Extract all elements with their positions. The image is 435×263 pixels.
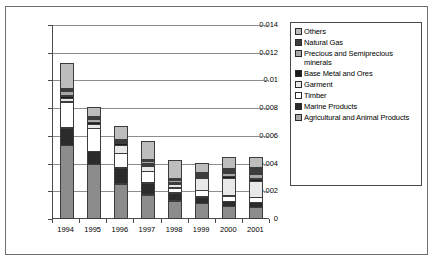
legend-item[interactable]: Base Metal and Ores bbox=[295, 69, 418, 78]
x-axis-tick-mark bbox=[269, 219, 270, 223]
bar-segment bbox=[114, 184, 128, 219]
legend-swatch-icon bbox=[295, 39, 302, 46]
plot-area bbox=[52, 25, 269, 219]
bar-segment bbox=[195, 203, 209, 218]
x-axis-tick-mark bbox=[133, 219, 134, 223]
x-axis-tick-mark bbox=[106, 219, 107, 223]
x-axis-tick-label: 1996 bbox=[111, 225, 128, 234]
gridline bbox=[53, 136, 269, 137]
legend-item[interactable]: Agricultural and Animal Products bbox=[295, 113, 418, 122]
bar-segment bbox=[222, 206, 236, 218]
legend-swatch-icon bbox=[295, 28, 302, 35]
gridline bbox=[53, 191, 269, 192]
legend-label: Base Metal and Ores bbox=[304, 69, 373, 78]
x-axis-tick-mark bbox=[215, 219, 216, 223]
gridline bbox=[53, 164, 269, 165]
bar-segment bbox=[141, 171, 155, 183]
x-axis-tick-label: 1998 bbox=[166, 225, 183, 234]
x-axis-tick-label: 1997 bbox=[139, 225, 156, 234]
bar-segment bbox=[168, 160, 182, 179]
x-axis-tick-mark bbox=[52, 219, 53, 223]
legend-swatch-icon bbox=[295, 103, 302, 110]
legend-swatch-icon bbox=[295, 81, 302, 88]
bar-segment bbox=[222, 178, 236, 196]
bar-segment bbox=[114, 153, 128, 168]
chart-figure: 00.0020.0040.0060.0080.010.0120.014 1994… bbox=[5, 6, 428, 255]
x-axis-tick-label: 2001 bbox=[247, 225, 264, 234]
legend-label: Garment bbox=[304, 80, 332, 89]
bar-1998[interactable] bbox=[168, 159, 182, 218]
legend-label: Precious and Semiprecious minerals bbox=[304, 49, 418, 67]
legend-item[interactable]: Others bbox=[295, 27, 418, 36]
x-axis-tick-mark bbox=[188, 219, 189, 223]
bar-segment bbox=[249, 181, 263, 198]
bar-segment bbox=[195, 178, 209, 190]
bar-segment bbox=[60, 102, 74, 128]
chart-legend: OthersNatural GasPrecious and Semiprecio… bbox=[290, 22, 422, 186]
bar-segment bbox=[141, 141, 155, 160]
bar-segment bbox=[87, 151, 101, 165]
bar-segment bbox=[114, 168, 128, 185]
x-axis-tick-mark bbox=[242, 219, 243, 223]
bar-1996[interactable] bbox=[114, 121, 128, 218]
bar-segment bbox=[60, 63, 74, 89]
legend-label: Agricultural and Animal Products bbox=[304, 113, 409, 122]
bar-segment bbox=[168, 201, 182, 219]
bar-1999[interactable] bbox=[195, 160, 209, 218]
x-axis-tick-label: 1995 bbox=[84, 225, 101, 234]
bar-segment bbox=[60, 128, 74, 146]
bar-segment bbox=[222, 157, 236, 169]
gridline bbox=[53, 53, 269, 54]
legend-item[interactable]: Precious and Semiprecious minerals bbox=[295, 49, 418, 67]
x-axis-tick-mark bbox=[161, 219, 162, 223]
bar-segment bbox=[141, 183, 155, 195]
legend-label: Timber bbox=[304, 91, 326, 100]
bar-segment bbox=[87, 164, 101, 218]
bar-2000[interactable] bbox=[222, 154, 236, 218]
bar-segment bbox=[60, 145, 74, 218]
bar-segment bbox=[114, 126, 128, 140]
gridline bbox=[53, 80, 269, 81]
legend-swatch-icon bbox=[295, 50, 302, 57]
legend-swatch-icon bbox=[295, 114, 302, 121]
legend-swatch-icon bbox=[295, 70, 302, 77]
bar-2001[interactable] bbox=[249, 154, 263, 218]
x-axis-tick-label: 1999 bbox=[193, 225, 210, 234]
bar-segment bbox=[87, 128, 101, 152]
bar-segment bbox=[249, 207, 263, 218]
legend-label: Others bbox=[304, 27, 326, 36]
bar-1997[interactable] bbox=[141, 137, 155, 218]
gridline bbox=[53, 108, 269, 109]
plot-area-wrapper: 00.0020.0040.0060.0080.010.0120.014 1994… bbox=[6, 7, 278, 256]
bar-segment bbox=[249, 157, 263, 168]
legend-item[interactable]: Marine Products bbox=[295, 102, 418, 111]
gridline bbox=[53, 25, 269, 26]
bar-segment bbox=[141, 195, 155, 219]
legend-item[interactable]: Timber bbox=[295, 91, 418, 100]
legend-item[interactable]: Natural Gas bbox=[295, 38, 418, 47]
bar-1995[interactable] bbox=[87, 103, 101, 218]
x-axis-tick-label: 2000 bbox=[220, 225, 237, 234]
legend-item[interactable]: Garment bbox=[295, 80, 418, 89]
legend-label: Marine Products bbox=[304, 102, 357, 111]
legend-label: Natural Gas bbox=[304, 38, 343, 47]
x-axis-tick-label: 1994 bbox=[57, 225, 74, 234]
bar-1994[interactable] bbox=[60, 59, 74, 218]
legend-swatch-icon bbox=[295, 92, 302, 99]
x-axis-tick-mark bbox=[79, 219, 80, 223]
